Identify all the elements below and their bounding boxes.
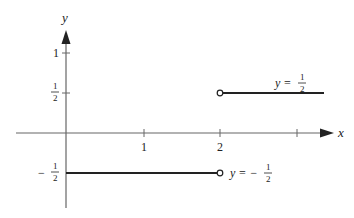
svg-text:1: 1 [266, 162, 271, 172]
x-tick-label-1: 1 [141, 140, 147, 154]
x-axis-label: x [337, 125, 344, 140]
y-tick-label-half: 1 2 [51, 81, 59, 103]
open-circle-icon [217, 170, 223, 176]
svg-text:y = −: y = − [229, 166, 258, 180]
open-circle-icon [217, 90, 223, 96]
y-tick-label-neg-half: − 1 2 [38, 161, 59, 183]
svg-text:2: 2 [53, 93, 58, 103]
svg-text:y =: y = [274, 76, 291, 90]
annotation-y-equals-half: y = 1 2 [274, 72, 306, 94]
y-tick-label-1: 1 [53, 46, 59, 60]
svg-text:1: 1 [53, 81, 58, 91]
svg-text:1: 1 [53, 161, 58, 171]
svg-text:−: − [38, 166, 45, 180]
x-tick-label-2: 2 [217, 140, 223, 154]
y-axis-label: y [60, 10, 68, 25]
annotation-y-equals-neg-half: y = − 1 2 [229, 162, 272, 184]
y-axis-arrow-icon [62, 30, 71, 44]
x-axis-arrow-icon [320, 129, 334, 138]
svg-text:2: 2 [300, 84, 305, 94]
svg-text:2: 2 [53, 173, 58, 183]
svg-text:2: 2 [266, 174, 271, 184]
piecewise-step-chart: x y 1 2 1 1 2 − 1 2 y = 1 2 y = − 1 2 [0, 0, 354, 218]
svg-text:1: 1 [300, 72, 305, 82]
